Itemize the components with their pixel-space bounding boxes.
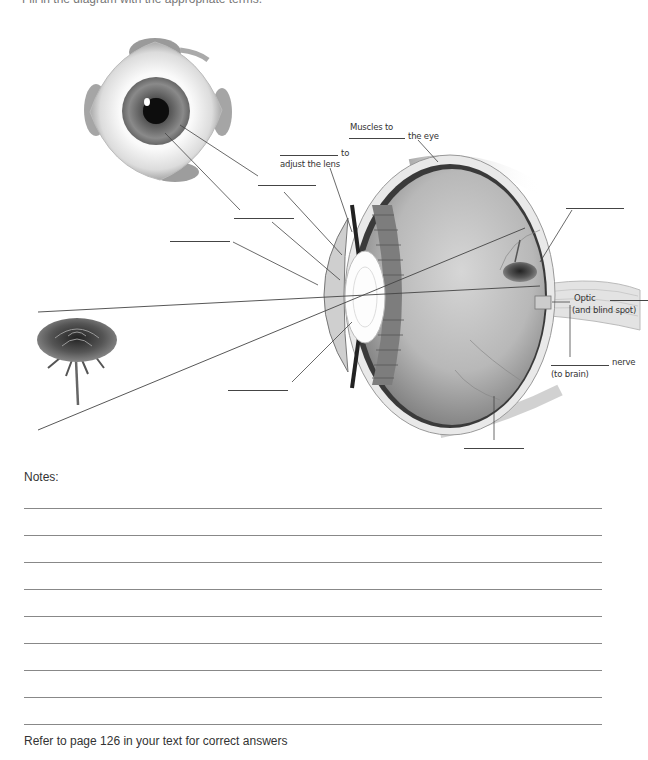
label-to-brain: (to brain) (551, 369, 589, 379)
blank-cornea[interactable] (170, 241, 230, 242)
label-blind-spot: (and blind spot) (572, 305, 636, 315)
blank-optic[interactable] (610, 300, 648, 301)
label-muscles-to: Muscles to (350, 122, 393, 132)
note-line[interactable] (24, 616, 602, 617)
rose-icon (37, 318, 117, 405)
note-line[interactable] (24, 589, 602, 590)
eye-diagram (0, 0, 648, 460)
note-line[interactable] (24, 697, 602, 698)
note-line[interactable] (24, 643, 602, 644)
label-the-eye: the eye (408, 131, 439, 141)
blank-iris[interactable] (258, 185, 316, 186)
label-to: to (341, 148, 349, 158)
eyeball-front-icon (84, 38, 232, 182)
blank-retina[interactable] (566, 208, 624, 209)
note-line[interactable] (24, 508, 602, 509)
note-line[interactable] (24, 562, 602, 563)
blank-sclera[interactable] (464, 448, 524, 449)
blank-adjust-lens[interactable] (280, 155, 338, 156)
notes-title: Notes: (24, 470, 59, 484)
label-nerve: nerve (612, 357, 635, 367)
footer-reference: Refer to page 126 in your text for corre… (24, 734, 287, 748)
blank-lens[interactable] (228, 390, 288, 391)
label-adjust-the-lens: adjust the lens (280, 159, 340, 169)
blank-nerve[interactable] (551, 365, 609, 366)
blank-pupil[interactable] (234, 218, 294, 219)
label-optic: Optic (574, 293, 595, 303)
blank-muscles[interactable] (349, 138, 405, 139)
note-line[interactable] (24, 724, 602, 725)
note-line[interactable] (24, 535, 602, 536)
note-line[interactable] (24, 670, 602, 671)
